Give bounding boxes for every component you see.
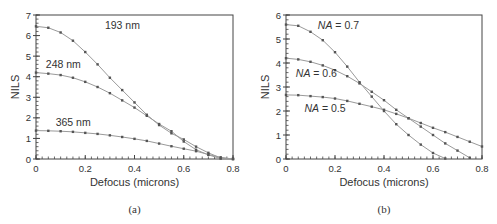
data-point (285, 23, 287, 25)
y-tick-label: 1 (26, 133, 31, 144)
data-point (407, 117, 409, 119)
data-point (84, 81, 86, 83)
data-point (35, 71, 37, 73)
x-tick-label: 0.2 (79, 163, 92, 174)
data-point (170, 130, 172, 132)
data-point (72, 77, 74, 79)
data-point (346, 75, 348, 77)
x-axis-title: Defocus (microns) (339, 176, 428, 188)
data-point (232, 158, 234, 160)
data-point (59, 31, 61, 33)
data-point (109, 77, 111, 79)
data-point (59, 130, 61, 132)
data-point (334, 97, 336, 99)
y-tick-label: 6 (26, 30, 31, 41)
data-point (383, 109, 385, 111)
data-point (469, 157, 471, 159)
series-label: 193 nm (105, 19, 140, 31)
x-tick-label: 0.8 (475, 163, 488, 174)
y-tick-label: 5 (26, 51, 31, 62)
figure-caption: (b) (378, 203, 391, 216)
data-point (219, 156, 221, 158)
y-tick-label: 0 (26, 154, 31, 165)
data-point (133, 101, 135, 103)
data-point (420, 122, 422, 124)
data-point (383, 99, 385, 101)
data-point (47, 27, 49, 29)
data-point (170, 145, 172, 147)
x-tick-label: 0.4 (377, 163, 390, 174)
data-point (371, 105, 373, 107)
data-point (158, 123, 160, 125)
data-point (297, 94, 299, 96)
series-line (286, 25, 445, 159)
data-point (444, 131, 446, 133)
y-tick-label: 2 (26, 112, 31, 123)
y-tick-label: 4 (276, 58, 281, 69)
chart-panel-a: 0123456700.20.40.60.8Defocus (microns)NI… (9, 10, 240, 217)
data-point (35, 25, 37, 27)
y-tick-label: 6 (276, 10, 281, 21)
data-point (96, 63, 98, 65)
chart-panel-b: 012345600.20.40.60.8Defocus (microns)NIL… (259, 10, 489, 217)
data-point (371, 95, 373, 97)
plot-frame (36, 15, 233, 159)
data-point (456, 149, 458, 151)
data-point (121, 136, 123, 138)
y-tick-label: 7 (26, 10, 31, 21)
data-point (432, 127, 434, 129)
data-point (395, 109, 397, 111)
data-point (146, 115, 148, 117)
data-point (395, 113, 397, 115)
y-tick-label: 4 (26, 71, 31, 82)
series-label: NA = 0.5 (304, 102, 345, 114)
data-point (322, 39, 324, 41)
data-point (334, 51, 336, 53)
data-point (395, 123, 397, 125)
x-axis-title: Defocus (microns) (90, 176, 179, 188)
data-point (47, 130, 49, 132)
data-point (432, 134, 434, 136)
data-point (96, 86, 98, 88)
figure: 0123456700.20.40.60.8Defocus (microns)NI… (0, 0, 497, 224)
x-tick-label: 0 (283, 163, 288, 174)
x-tick-label: 0.6 (177, 163, 190, 174)
data-point (420, 143, 422, 145)
x-tick-label: 0.8 (226, 163, 239, 174)
data-point (59, 74, 61, 76)
data-point (183, 148, 185, 150)
data-point (346, 65, 348, 67)
data-point (207, 153, 209, 155)
data-point (146, 140, 148, 142)
data-point (346, 100, 348, 102)
data-point (322, 96, 324, 98)
series-label: 365 nm (56, 116, 91, 128)
y-tick-label: 3 (276, 82, 281, 93)
y-tick-label: 3 (26, 92, 31, 103)
x-tick-label: 0 (33, 163, 38, 174)
data-point (407, 134, 409, 136)
data-point (35, 129, 37, 131)
data-point (195, 150, 197, 152)
data-point (297, 25, 299, 27)
figure-caption: (a) (128, 203, 141, 216)
data-point (72, 131, 74, 133)
plot-frame (286, 15, 482, 159)
data-point (432, 152, 434, 154)
data-point (96, 133, 98, 135)
data-point (121, 89, 123, 91)
data-point (121, 99, 123, 101)
data-point (109, 134, 111, 136)
data-point (158, 142, 160, 144)
data-point (420, 125, 422, 127)
data-point (444, 142, 446, 144)
series-label: 248 nm (46, 58, 81, 70)
data-point (371, 91, 373, 93)
data-point (84, 132, 86, 134)
y-tick-label: 1 (276, 130, 281, 141)
data-point (309, 61, 311, 63)
data-point (358, 82, 360, 84)
y-axis-title: NILS (259, 75, 271, 99)
data-point (469, 141, 471, 143)
data-point (358, 103, 360, 105)
